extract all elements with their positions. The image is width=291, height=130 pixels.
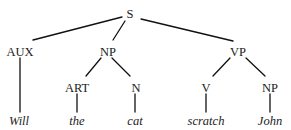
- leaf-will: Will: [9, 114, 30, 128]
- leaf-cat: cat: [127, 114, 143, 128]
- edge-s-np: [113, 21, 125, 40]
- node-np-object: NP: [262, 81, 278, 95]
- node-s: S: [127, 7, 134, 21]
- tree-nodes: S AUX NP VP ART N V NP: [6, 7, 278, 95]
- edge-s-aux: [33, 17, 122, 40]
- node-v: V: [201, 81, 210, 95]
- node-vp: VP: [230, 45, 246, 59]
- leaf-scratch: scratch: [188, 114, 225, 128]
- node-n: N: [131, 81, 140, 95]
- edge-vp-np: [246, 58, 265, 76]
- edge-s-vp: [141, 19, 233, 41]
- leaf-the: the: [69, 114, 85, 128]
- node-art: ART: [65, 81, 90, 95]
- tree-edges: [20, 17, 270, 112]
- node-aux: AUX: [6, 45, 33, 59]
- tree-leaves: Will the cat scratch John: [9, 114, 282, 128]
- edge-vp-v: [213, 58, 230, 76]
- edge-np-n: [112, 58, 130, 76]
- syntax-tree-diagram: S AUX NP VP ART N V NP Will the cat scra…: [0, 0, 291, 130]
- leaf-john: John: [258, 114, 282, 128]
- node-np-subject: NP: [100, 45, 116, 59]
- edge-np-art: [86, 58, 101, 76]
